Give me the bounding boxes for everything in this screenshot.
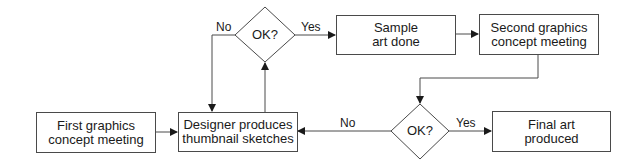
node-final-art-produced: Final art produced xyxy=(492,111,611,152)
node-first-graphics-meeting: First graphics concept meeting xyxy=(36,112,156,153)
node-sample-art-done: Sample art done xyxy=(336,15,456,55)
decision-top-label: OK? xyxy=(245,28,285,42)
node-label-line1: First graphics xyxy=(48,119,143,133)
node-label-line1: Designer produces xyxy=(182,118,293,132)
node-label-line2: produced xyxy=(524,132,578,146)
edge-top-no xyxy=(212,35,235,111)
node-label-line2: concept meeting xyxy=(48,133,143,147)
edge-second-to-bottom-decision xyxy=(420,54,538,103)
node-label-line1: Second graphics xyxy=(491,21,588,35)
node-label-line2: concept meeting xyxy=(491,35,588,49)
node-label-line2: thumbnail sketches xyxy=(182,132,293,146)
edge-label-bottom-yes: Yes xyxy=(456,117,476,130)
node-second-graphics-meeting: Second graphics concept meeting xyxy=(479,14,599,55)
edge-label-top-no: No xyxy=(216,21,231,34)
edge-label-top-yes: Yes xyxy=(301,21,321,34)
node-designer-thumbnails: Designer produces thumbnail sketches xyxy=(178,112,298,152)
decision-bottom-label: OK? xyxy=(400,124,440,138)
node-label-line1: Final art xyxy=(524,118,578,132)
edge-label-bottom-no: No xyxy=(340,117,355,130)
node-label-line1: Sample xyxy=(372,21,420,35)
node-label-line2: art done xyxy=(372,35,420,49)
